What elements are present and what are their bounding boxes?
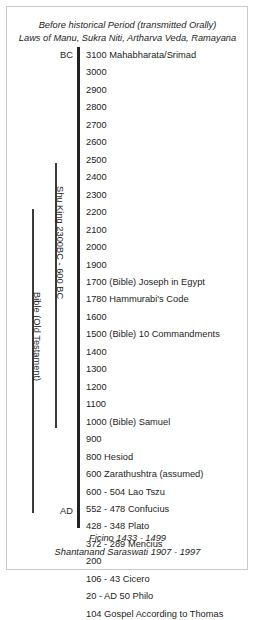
timeline-row-event: (Bible) 10 Commandments — [109, 329, 220, 339]
timeline-row-event: Hammurabi's Code — [109, 294, 188, 304]
timeline-row-event: Philo — [133, 591, 154, 601]
era-label-bc: BC — [33, 50, 73, 61]
timeline-axis-bar — [77, 47, 80, 528]
bracket-label-bible: Bible (Old Testament) — [32, 292, 42, 381]
timeline-row: 2500 — [86, 155, 107, 166]
timeline-row-year: 1100 — [86, 399, 106, 409]
timeline-row: 1200 — [86, 382, 107, 393]
timeline-row-year: 3100 — [86, 50, 107, 60]
timeline-row-year: 900 — [86, 434, 102, 444]
timeline-row-year: 2000 — [86, 242, 107, 252]
timeline-row-year: 2600 — [86, 137, 107, 147]
timeline-row-year: 1400 — [86, 347, 107, 357]
timeline-row-year: 3000 — [86, 67, 107, 77]
timeline-row-year: 428 - 348 — [86, 521, 125, 531]
timeline-row-year: 104 — [86, 609, 102, 619]
timeline-row-year: 600 — [86, 469, 102, 479]
timeline-row: 2100 — [86, 225, 107, 236]
timeline-row: 1100 — [86, 399, 106, 410]
timeline-row-year: 1900 — [86, 260, 107, 270]
footer-line-1: Ficino 1433 - 1499 — [0, 531, 255, 545]
timeline-row-event: Plato — [128, 521, 149, 531]
timeline-row: 2400 — [86, 172, 107, 183]
timeline-row-year: 552 - 478 — [86, 504, 125, 514]
timeline-row-year: 2700 — [86, 120, 107, 130]
timeline-row: 104 Gospel According to Thomas — [86, 609, 223, 620]
timeline-row-event: (Bible) Samuel — [109, 417, 170, 427]
timeline-row-event: Zarathushtra (assumed) — [104, 469, 203, 479]
timeline-row-event: Mahabharata/Srimad — [109, 50, 196, 60]
timeline-row-year: 1200 — [86, 382, 107, 392]
timeline-row: 2300 — [86, 190, 107, 201]
timeline-row: 2000 — [86, 242, 107, 253]
timeline-row-year: 2500 — [86, 155, 107, 165]
timeline-row-year: 2400 — [86, 172, 107, 182]
timeline-row: 600 Zarathushtra (assumed) — [86, 469, 203, 480]
timeline-row-year: 1500 — [86, 329, 107, 339]
timeline-row: 900 — [86, 434, 102, 445]
timeline-row: 2600 — [86, 137, 107, 148]
timeline-row: 20 - AD 50 Philo — [86, 591, 153, 602]
era-label-ad: AD — [33, 506, 73, 517]
timeline-row: 1300 — [86, 364, 107, 375]
timeline-row: 106 - 43 Cicero — [86, 574, 150, 585]
timeline-row-year: 2900 — [86, 85, 107, 95]
timeline-row: 2200 — [86, 207, 107, 218]
timeline-row: 1700 (Bible) Joseph in Egypt — [86, 277, 205, 288]
timeline-row-year: 800 — [86, 452, 102, 462]
timeline-row-event: Cicero — [123, 574, 150, 584]
bracket-label-shu-king: Shu King 2300BC - 600 BC — [55, 186, 65, 299]
timeline-row: 1780 Hammurabi's Code — [86, 294, 189, 305]
timeline-row-event: Confucius — [128, 504, 169, 514]
timeline-row: 1600 — [86, 312, 107, 323]
timeline-row-year: 1700 — [86, 277, 107, 287]
timeline-row-year: 600 - 504 — [86, 487, 125, 497]
timeline-row-year: 2200 — [86, 207, 107, 217]
timeline-row-year: 2300 — [86, 190, 107, 200]
timeline-row: 1500 (Bible) 10 Commandments — [86, 329, 220, 340]
footer-block: Ficino 1433 - 1499 Shantanand Saraswati … — [0, 531, 255, 559]
timeline-row: 2700 — [86, 120, 107, 131]
timeline-row-event: Lao Tszu — [128, 487, 165, 497]
timeline-row-year: 20 - AD 50 — [86, 591, 130, 601]
timeline-row: 2800 — [86, 102, 107, 113]
timeline-row-event: Gospel According to Thomas — [104, 609, 223, 619]
timeline-row-year: 2100 — [86, 225, 107, 235]
timeline-row-year: 1000 — [86, 417, 107, 427]
timeline-row-year: 1600 — [86, 312, 107, 322]
timeline-row: 3100 Mahabharata/Srimad — [86, 50, 196, 61]
timeline-row: 1400 — [86, 347, 107, 358]
footer-line-2: Shantanand Saraswati 1907 - 1997 — [0, 545, 255, 559]
timeline-row-year: 1780 — [86, 294, 107, 304]
timeline-row-year: 1300 — [86, 364, 107, 374]
timeline-row: 1000 (Bible) Samuel — [86, 417, 170, 428]
timeline-row: 600 - 504 Lao Tszu — [86, 487, 165, 498]
timeline-row-year: 106 - 43 — [86, 574, 120, 584]
timeline-row-event: Hesiod — [104, 452, 133, 462]
timeline-row: 2900 — [86, 85, 107, 96]
timeline-row: 1900 — [86, 260, 107, 271]
timeline-row: 552 - 478 Confucius — [86, 504, 169, 515]
timeline-row: 800 Hesiod — [86, 452, 133, 463]
timeline-row-event: (Bible) Joseph in Egypt — [109, 277, 205, 287]
timeline-row-year: 2800 — [86, 102, 107, 112]
timeline-row: 3000 — [86, 67, 107, 78]
